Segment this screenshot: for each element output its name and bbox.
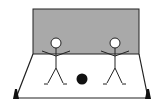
game-diagram (0, 0, 161, 111)
head-icon (51, 38, 61, 48)
head-icon (110, 38, 120, 48)
ball-icon (77, 74, 88, 85)
diagram-canvas (0, 0, 161, 111)
wall (33, 9, 139, 54)
